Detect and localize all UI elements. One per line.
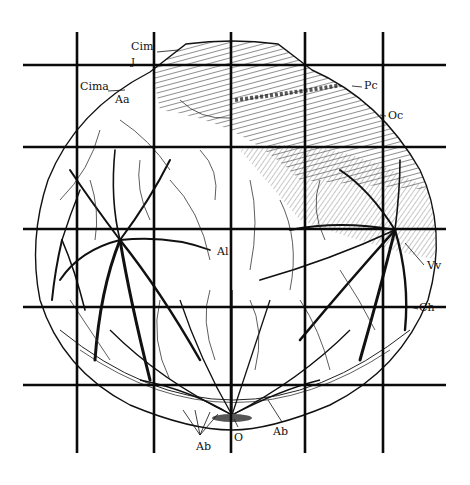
label-cima: Cima [80, 81, 109, 92]
label-cim: Cim [131, 41, 153, 52]
label-oc: Oc [388, 110, 403, 121]
eyeball-vascular-diagram: Cim J Cima Aa Pc Oc Al Vv Ch Ab O Ab [0, 0, 470, 485]
eyeball-globe [36, 41, 441, 430]
label-ch: Ch [419, 302, 435, 313]
label-vv: Vv [427, 260, 441, 271]
label-al: Al [217, 246, 228, 257]
label-pc: Pc [364, 80, 378, 91]
label-ab-left: Ab [196, 441, 211, 452]
diagram-canvas [0, 0, 470, 485]
label-o: O [234, 432, 243, 443]
label-ab-right: Ab [273, 426, 288, 437]
label-aa: Aa [115, 94, 130, 105]
label-j: J [131, 57, 135, 67]
